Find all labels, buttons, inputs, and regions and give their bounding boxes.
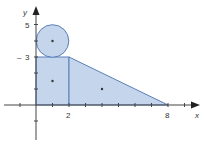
y-axis-arrow-icon xyxy=(33,6,40,15)
y-tick-label-3: 3 xyxy=(25,53,30,62)
centroid-dot-circle xyxy=(51,40,53,42)
centroid-dot-triangle xyxy=(101,88,103,90)
x-axis-arrow-icon xyxy=(191,102,200,109)
triangle-region xyxy=(69,57,168,105)
region-diagram: y 5 – 3 2 8 x xyxy=(0,0,206,149)
x-axis-label: x xyxy=(194,111,200,120)
y-tick-label-5: 5 xyxy=(25,21,30,30)
y-tick-label-minus: – xyxy=(17,53,22,62)
centroid-dot-rectangle xyxy=(51,80,53,82)
x-tick-label-2: 2 xyxy=(66,111,71,120)
y-axis-label: y xyxy=(22,8,28,17)
x-tick-label-8: 8 xyxy=(165,111,170,120)
